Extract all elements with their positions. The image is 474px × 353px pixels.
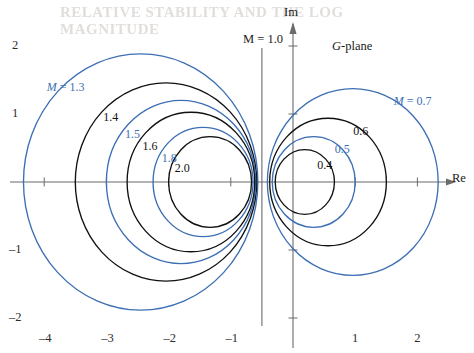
- m-circles-figure: RELATIVE STABILITY AND THE LOG MAGNITUDE…: [0, 0, 474, 353]
- plot-canvas: [0, 0, 474, 353]
- axes-layer: [10, 22, 456, 348]
